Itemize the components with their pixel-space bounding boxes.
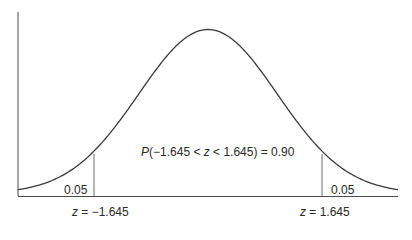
prob-body: (−1.645 <	[149, 145, 204, 159]
prob-symbol: P	[141, 145, 149, 159]
bell-curve	[18, 30, 398, 190]
center-probability-label: P(−1.645 < z < 1.645) = 0.90	[141, 146, 294, 158]
right-tail-area-label: 0.05	[331, 184, 354, 196]
right-z-label: z = 1.645	[300, 206, 350, 218]
right-z-value: = 1.645	[306, 205, 350, 219]
prob-body2: < 1.645) = 0.90	[210, 145, 295, 159]
left-tail-area-label: 0.05	[64, 184, 87, 196]
left-z-label: z = −1.645	[72, 206, 129, 218]
left-z-value: = −1.645	[78, 205, 129, 219]
